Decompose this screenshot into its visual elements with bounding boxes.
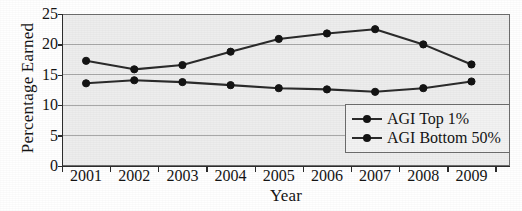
chart-legend: AGI Top 1% AGI Bottom 50% — [345, 104, 510, 153]
chart-figure: Percentage Earned Year 0510152025 200120… — [0, 0, 522, 211]
legend-item-label: AGI Bottom 50% — [387, 129, 501, 146]
x-tick-label: 2009 — [443, 167, 499, 185]
legend-marker-icon — [352, 112, 382, 126]
legend-item: AGI Top 1% — [352, 109, 501, 128]
legend-item-label: AGI Top 1% — [387, 110, 469, 127]
legend-item: AGI Bottom 50% — [352, 128, 501, 147]
legend-marker-icon — [352, 131, 382, 145]
